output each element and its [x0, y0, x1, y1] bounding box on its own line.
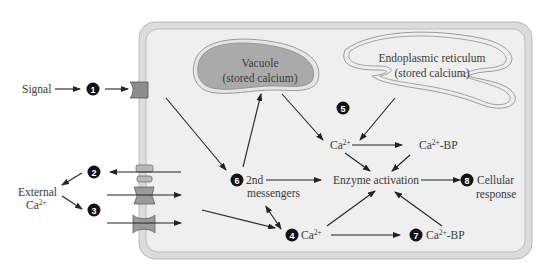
- second-messengers-sublabel: messengers: [247, 187, 301, 200]
- step-1-badge: 1: [87, 83, 100, 96]
- step-7-badge: 7: [410, 229, 423, 242]
- cellular-response-sublabel: response: [476, 188, 516, 201]
- calcium-signaling-diagram: Vacuole (stored calcium) Endoplasmic ret…: [0, 0, 554, 271]
- svg-text:8: 8: [464, 176, 469, 186]
- step-6-badge: 6: [231, 174, 244, 187]
- svg-text:2: 2: [91, 168, 96, 178]
- vacuole-sublabel: (stored calcium): [222, 72, 297, 85]
- step-5-badge: 5: [337, 102, 350, 115]
- step-3-badge: 3: [88, 204, 101, 217]
- er-label: Endoplasmic reticulum: [379, 52, 486, 65]
- step-4-badge: 4: [286, 229, 299, 242]
- svg-text:3: 3: [91, 206, 96, 216]
- svg-text:6: 6: [234, 176, 239, 186]
- enzyme-activation-label: Enzyme activation: [333, 174, 419, 187]
- cellular-response-label: Cellular: [477, 174, 514, 186]
- vacuole-label: Vacuole: [241, 57, 278, 69]
- svg-text:7: 7: [413, 231, 418, 241]
- signal-label: Signal: [22, 83, 51, 96]
- er-sublabel: (stored calcium): [394, 67, 469, 80]
- second-messengers-label: 2nd: [246, 174, 264, 186]
- step-2-badge: 2: [88, 166, 101, 179]
- external-ca-ion: Ca2+: [26, 198, 47, 211]
- svg-text:1: 1: [90, 85, 95, 95]
- step-8-badge: 8: [461, 174, 474, 187]
- receptor-icon: [130, 82, 148, 98]
- external-ca-label: External: [18, 186, 57, 198]
- svg-text:5: 5: [340, 104, 345, 114]
- svg-text:4: 4: [289, 231, 294, 241]
